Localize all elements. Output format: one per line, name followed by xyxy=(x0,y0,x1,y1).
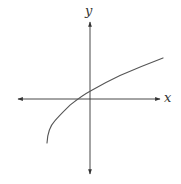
graph xyxy=(0,0,181,184)
sqrt-curve xyxy=(47,58,163,143)
x-axis-label: x xyxy=(164,91,171,104)
y-axis-label: y xyxy=(85,4,92,17)
